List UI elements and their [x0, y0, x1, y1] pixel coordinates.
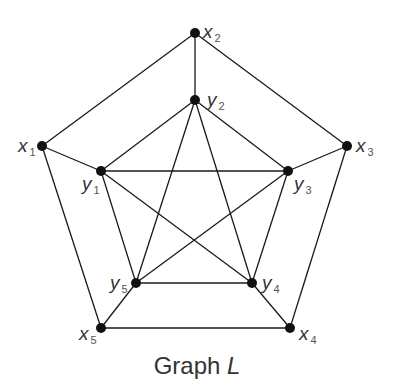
edge-x3-y3 — [288, 146, 347, 171]
edge-y1-y5 — [101, 171, 136, 283]
vertex-label-y2: y2 — [205, 89, 225, 112]
edge-x1-y1 — [42, 146, 101, 171]
vertex-label-x5: x5 — [78, 323, 97, 346]
vertex-y5 — [131, 278, 141, 288]
edge-y1-y2 — [101, 100, 195, 171]
graph-l-diagram: x1x2x3x4x5y1y2y3y4y5 — [0, 0, 394, 391]
edge-y1-y4 — [101, 171, 252, 283]
vertex-y3 — [283, 166, 293, 176]
edge-x5-x1 — [42, 146, 101, 328]
edge-y2-y5 — [136, 100, 195, 283]
graph-caption: Graph L — [0, 352, 394, 380]
vertex-label-x3: x3 — [355, 135, 374, 158]
edge-y3-y4 — [252, 171, 288, 283]
vertex-x3 — [342, 141, 352, 151]
vertex-label-y1: y1 — [80, 173, 100, 196]
edge-y2-y4 — [195, 100, 252, 283]
vertex-x4 — [285, 323, 295, 333]
edge-x1-x2 — [42, 33, 195, 146]
vertex-label-y5: y5 — [108, 272, 128, 295]
vertex-label-x4: x4 — [298, 323, 317, 346]
vertex-x1 — [37, 141, 47, 151]
vertex-label-y4: y4 — [260, 272, 280, 295]
vertex-y1 — [96, 166, 106, 176]
edge-y2-y3 — [195, 100, 288, 171]
vertex-label-x1: x1 — [17, 135, 36, 158]
vertex-label-x2: x2 — [202, 21, 221, 44]
vertex-y2 — [190, 95, 200, 105]
vertex-y4 — [247, 278, 257, 288]
vertex-label-y3: y3 — [292, 173, 312, 196]
vertex-x2 — [190, 28, 200, 38]
edge-x2-x3 — [195, 33, 347, 146]
caption-prefix: Graph — [154, 352, 227, 379]
caption-graph-name: L — [227, 352, 240, 379]
vertex-x5 — [96, 323, 106, 333]
edge-y3-y5 — [136, 171, 288, 283]
